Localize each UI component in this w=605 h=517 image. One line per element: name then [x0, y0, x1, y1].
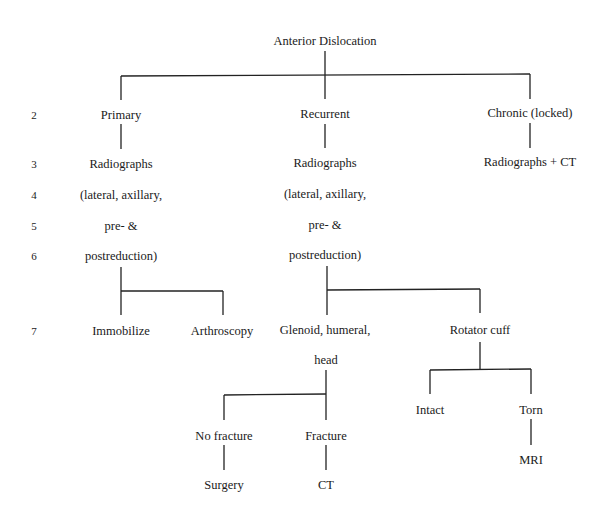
primary-imaging-line2: (lateral, axillary, [80, 189, 162, 202]
primary-imaging-line3: pre- & [105, 220, 138, 233]
ct-node: CT [318, 479, 334, 492]
torn-node: Torn [519, 404, 542, 417]
recurrent-imaging-line3: pre- & [309, 219, 342, 232]
rotator-cuff-node: Rotator cuff [450, 324, 511, 337]
no-fracture-node: No fracture [195, 430, 252, 443]
fracture-node: Fracture [305, 430, 347, 443]
recurrent-node: Recurrent [300, 108, 349, 121]
chronic-imaging: Radiographs + CT [484, 156, 576, 169]
row-number-3: 3 [31, 158, 37, 170]
primary-imaging-line4: postreduction) [85, 250, 157, 263]
row-number-5: 5 [31, 220, 37, 232]
row-number-2: 2 [31, 109, 37, 121]
glenoid-node-line2: head [314, 354, 338, 367]
row-number-4: 4 [31, 189, 37, 201]
glenoid-node-line1: Glenoid, humeral, [280, 324, 371, 337]
primary-node: Primary [101, 109, 141, 122]
immobilize-node: Immobilize [92, 325, 150, 338]
chronic-node: Chronic (locked) [487, 107, 572, 120]
intact-node: Intact [416, 404, 444, 417]
row-number-6: 6 [31, 250, 37, 262]
mri-node: MRI [519, 454, 543, 467]
primary-imaging-line1: Radiographs [89, 158, 152, 171]
surgery-node: Surgery [204, 479, 243, 492]
recurrent-imaging-line1: Radiographs [293, 157, 356, 170]
arthroscopy-node: Arthroscopy [191, 325, 254, 338]
row-number-7: 7 [31, 325, 37, 337]
recurrent-imaging-line4: postreduction) [289, 249, 361, 262]
root-node: Anterior Dislocation [273, 35, 376, 48]
recurrent-imaging-line2: (lateral, axillary, [284, 188, 366, 201]
